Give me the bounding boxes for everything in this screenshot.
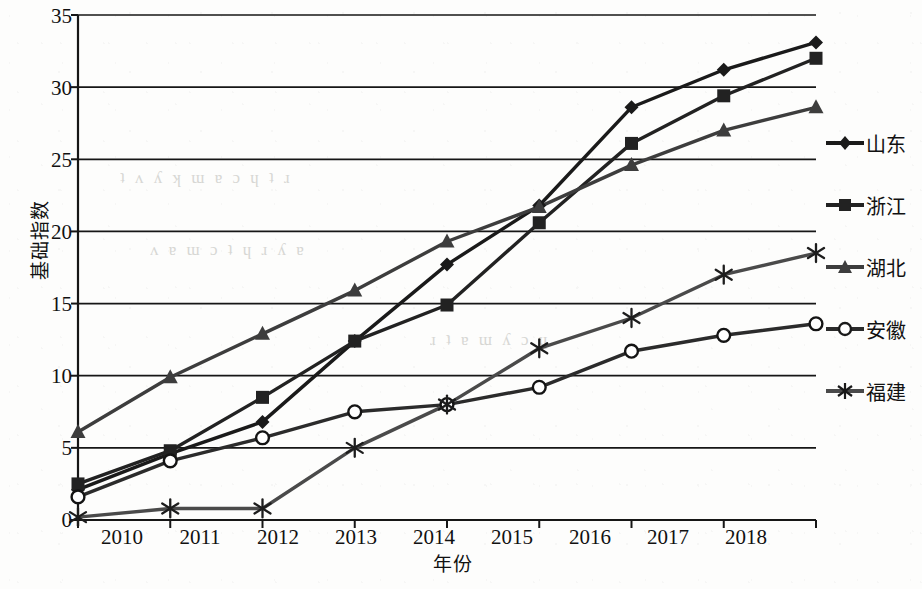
- y-tick-5: 5: [28, 436, 72, 461]
- legend-item-zhejiang[interactable]: 浙江: [826, 174, 922, 236]
- x-tick-2010: 2010: [82, 525, 162, 550]
- data-point: [809, 35, 823, 49]
- data-point: [717, 329, 730, 342]
- y-tick-35: 35: [28, 4, 72, 29]
- legend-label-shandong: 山东: [866, 129, 906, 158]
- legend-label-zhejiang: 浙江: [866, 191, 906, 220]
- data-point: [533, 381, 546, 394]
- legend-item-fujian[interactable]: 福建: [826, 360, 922, 422]
- legend-marker-circle-icon: [826, 319, 864, 339]
- x-tick-2017: 2017: [628, 525, 708, 550]
- legend-marker-triangle-icon: [826, 257, 864, 277]
- x-tick-2018: 2018: [706, 525, 786, 550]
- data-point: [809, 99, 824, 113]
- x-tick-2012: 2012: [238, 525, 318, 550]
- legend-label-hubei: 湖北: [866, 253, 906, 282]
- line-chart-figure: [0, 0, 922, 589]
- data-point: [717, 89, 730, 102]
- y-axis-title: 基础指数: [25, 180, 52, 300]
- legend-item-shandong[interactable]: 山东: [826, 112, 922, 174]
- data-point: [810, 317, 823, 330]
- legend-marker-asterisk-icon: [826, 381, 864, 401]
- x-tick-2011: 2011: [160, 525, 240, 550]
- x-tick-2015: 2015: [472, 525, 552, 550]
- data-point: [72, 491, 85, 504]
- legend-label-anhui: 安徽: [866, 315, 906, 344]
- legend-item-hubei[interactable]: 湖北: [826, 236, 922, 298]
- data-point: [625, 345, 638, 358]
- legend-label-fujian: 福建: [866, 377, 906, 406]
- data-point: [256, 431, 269, 444]
- legend-item-anhui[interactable]: 安徽: [826, 298, 922, 360]
- y-tick-25: 25: [28, 148, 72, 173]
- data-point: [717, 63, 731, 77]
- data-point: [533, 216, 546, 229]
- data-point: [256, 391, 269, 404]
- chart-legend: 山东 浙江 湖北 安徽 福建: [826, 112, 922, 422]
- legend-marker-diamond-icon: [826, 133, 864, 153]
- data-point: [441, 299, 454, 312]
- data-point: [531, 339, 547, 357]
- data-point: [625, 137, 638, 150]
- data-point: [348, 405, 361, 418]
- data-point: [72, 477, 85, 490]
- series-line-4: [78, 253, 816, 517]
- legend-marker-square-icon: [826, 195, 864, 215]
- y-tick-30: 30: [28, 76, 72, 101]
- y-tick-10: 10: [28, 364, 72, 389]
- x-tick-2014: 2014: [394, 525, 474, 550]
- x-tick-2016: 2016: [550, 525, 630, 550]
- data-point: [348, 335, 361, 348]
- data-point: [164, 454, 177, 467]
- x-axis-title: 年份: [373, 549, 533, 576]
- data-point: [810, 52, 823, 65]
- data-point: [71, 424, 86, 438]
- x-tick-2013: 2013: [316, 525, 396, 550]
- data-point: [624, 309, 640, 327]
